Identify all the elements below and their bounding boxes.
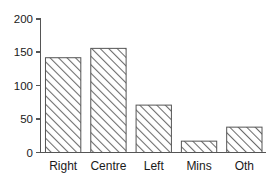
y-tick-label-100: 100 xyxy=(14,80,33,92)
bar-left xyxy=(136,105,171,152)
bar-chart: 0 50 100 150 200 Right Centre Left Mins … xyxy=(0,0,274,181)
x-label-oth: Oth xyxy=(235,159,254,173)
y-tick-label-200: 200 xyxy=(14,13,33,25)
y-tick-label-50: 50 xyxy=(20,113,33,125)
bar-centre xyxy=(91,48,126,152)
x-label-mins: Mins xyxy=(186,159,211,173)
x-label-left: Left xyxy=(144,159,165,173)
y-tick-label-0: 0 xyxy=(27,147,33,159)
x-label-centre: Centre xyxy=(90,159,126,173)
chart-background xyxy=(0,0,274,181)
bar-right xyxy=(45,58,80,153)
y-tick-label-150: 150 xyxy=(14,46,33,58)
bar-mins xyxy=(181,141,216,152)
bar-oth xyxy=(227,127,262,152)
x-label-right: Right xyxy=(49,159,78,173)
